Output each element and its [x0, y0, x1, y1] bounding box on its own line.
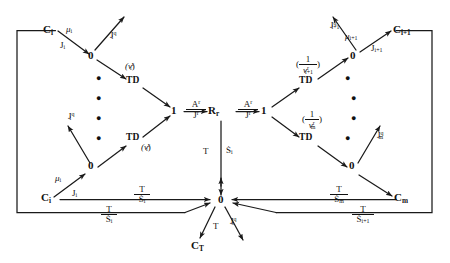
- label-jq-i-top: Jqi: [110, 31, 113, 41]
- node-c-m: Cm: [394, 192, 408, 205]
- label-nu-i-r-top: (νri): [125, 62, 135, 72]
- node-td-top-right: TD: [299, 76, 313, 86]
- node-c-t: CT: [191, 240, 204, 253]
- label-t-sdot-m-rail: T Ṡm: [330, 185, 348, 205]
- edge-one-right-to-td-bot: [272, 117, 299, 137]
- label-jq-i1: Jqi+1: [330, 21, 339, 31]
- node-td-top-left: TD: [126, 76, 140, 86]
- node-zero-mid-left: 0: [88, 160, 94, 171]
- label-t-sdot-i-outer: T Ṡi: [101, 205, 117, 225]
- label-mu-i-top: μi: [66, 25, 72, 35]
- node-zero-bottom: 0: [218, 194, 224, 205]
- label-t-sdot-i-rail: T Ṡi: [134, 185, 150, 205]
- label-t-bottom: T: [213, 222, 219, 231]
- edge-td-to-one-left: [143, 88, 170, 107]
- label-ar-jr-right: Ar Jr: [238, 99, 258, 120]
- label-inv-nu-i1: ( 1 νri+1 ): [296, 55, 320, 76]
- node-zero-mid-right: 0: [349, 160, 355, 171]
- node-zero-top-left: 0: [88, 50, 94, 61]
- label-mu-i1: μi+1: [345, 32, 358, 42]
- label-t-center: T: [203, 147, 209, 156]
- edge-zero-to-cm: [359, 175, 392, 196]
- node-r-center: Rr: [208, 105, 219, 118]
- label-sdot-i-center: Ṡi: [226, 146, 233, 156]
- edge-outer-left-into-zero: [185, 203, 210, 213]
- label-ar-jr-left: Ar Jr: [186, 99, 206, 120]
- label-jq-i-bot: Jqi: [68, 112, 71, 122]
- label-mu-i-bot: μi: [55, 174, 61, 184]
- label-nu-i-r-bot: (νri): [141, 143, 151, 153]
- edge-td-bot-right-to-zero: [318, 146, 347, 167]
- node-td-bot-left: TD: [126, 133, 140, 143]
- edge-zero-mid-jq: [68, 126, 90, 163]
- edge-td-bot-to-one-left: [143, 116, 170, 137]
- edge-td-top-right-to-zero: [318, 58, 348, 79]
- edge-one-right-to-td-top: [272, 88, 299, 107]
- label-j-i-top: Ji: [60, 41, 65, 51]
- node-one-right: 1: [261, 105, 267, 116]
- edge-outer-right-into-zero: [233, 203, 276, 213]
- node-td-bot-right: TD: [299, 133, 313, 143]
- label-jq-s-bottom: Jqs: [230, 217, 234, 227]
- node-c-i-bot: Ci: [41, 192, 51, 205]
- bond-graph-figure: Ci 0 TD 1 Rr 1 TD 0 Ci+1 0 TD Ci TD 0 Cm…: [0, 0, 450, 263]
- label-j-i-bot: Ji: [72, 189, 77, 199]
- edge-zero-jq-s: [225, 207, 243, 240]
- label-inv-nu-m: ( 1 νrm ): [302, 110, 322, 131]
- label-t-sdot-i1-outer: T Ṡi+1: [352, 205, 374, 225]
- label-j-i1: Ji+1: [371, 44, 382, 54]
- node-c-i-top: Ci: [43, 24, 53, 37]
- node-zero-top-right: 0: [350, 50, 356, 61]
- node-one-left: 1: [171, 105, 177, 116]
- label-jq-m: Jqm: [377, 131, 383, 141]
- node-c-i1-top: Ci+1: [393, 24, 411, 37]
- edge-zero-mid-to-td: [98, 146, 126, 167]
